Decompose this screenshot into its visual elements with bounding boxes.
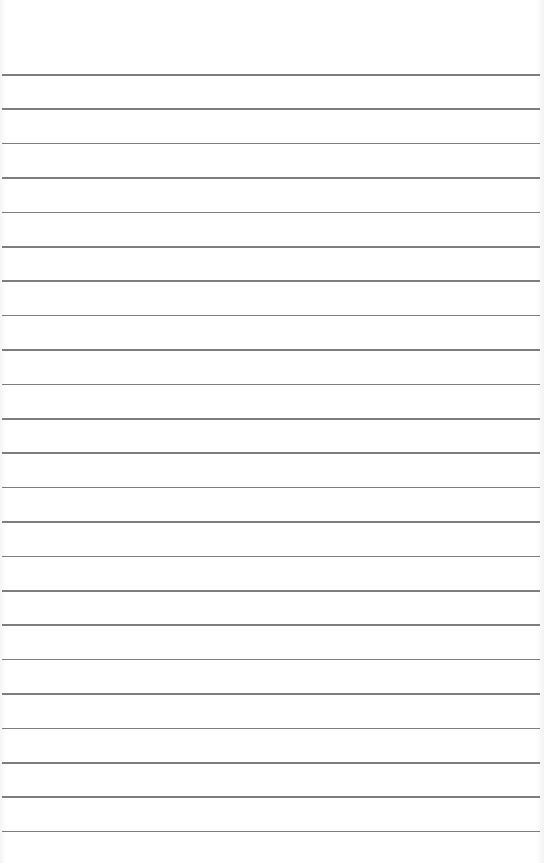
ruled-line xyxy=(2,74,540,76)
ruled-line xyxy=(2,212,540,214)
ruled-line xyxy=(2,693,540,695)
ruled-line xyxy=(2,349,540,351)
ruled-line xyxy=(2,556,540,558)
ruled-line xyxy=(2,796,540,798)
ruled-line xyxy=(2,315,540,317)
lined-paper-sheet xyxy=(0,0,544,863)
ruled-line xyxy=(2,108,540,110)
ruled-line xyxy=(2,659,540,661)
ruled-line xyxy=(2,762,540,764)
ruled-line xyxy=(2,246,540,248)
ruled-line xyxy=(2,143,540,145)
ruled-line xyxy=(2,831,540,833)
ruled-line xyxy=(2,590,540,592)
ruled-line xyxy=(2,177,540,179)
ruled-line xyxy=(2,487,540,489)
ruled-line xyxy=(2,418,540,420)
ruled-line xyxy=(2,728,540,730)
ruled-line xyxy=(2,384,540,386)
ruled-line xyxy=(2,280,540,282)
ruled-line xyxy=(2,624,540,626)
ruled-line xyxy=(2,521,540,523)
ruled-line xyxy=(2,452,540,454)
